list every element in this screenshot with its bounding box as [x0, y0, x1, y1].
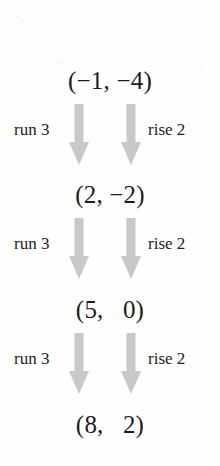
rise-label-2: rise 2: [148, 235, 185, 252]
coordinate-point-3: (5, 0): [0, 297, 220, 322]
step-row-2: run 3 rise 2: [0, 218, 220, 280]
rise-label-3: rise 2: [148, 350, 185, 367]
step-row-3: run 3 rise 2: [0, 333, 220, 395]
coordinate-point-1: (−1, −4): [0, 68, 220, 93]
rise-label-1: rise 2: [148, 121, 185, 138]
down-arrow-icon-rise-2: [120, 218, 142, 280]
down-arrow-icon-run-3: [68, 333, 90, 395]
run-label-3: run 3: [14, 350, 49, 367]
down-arrow-icon-run-1: [68, 104, 90, 166]
down-arrow-icon-rise-1: [120, 104, 142, 166]
coordinate-point-4: (8, 2): [0, 412, 220, 437]
run-label-1: run 3: [14, 121, 49, 138]
scan-artifact: [14, 14, 24, 22]
scan-artifact: [57, 59, 66, 65]
step-row-1: run 3 rise 2: [0, 104, 220, 166]
down-arrow-icon-rise-3: [120, 333, 142, 395]
slope-chain-figure: (−1, −4) run 3 rise 2 (2, −2) run 3: [0, 0, 220, 466]
run-label-2: run 3: [14, 235, 49, 252]
down-arrow-icon-run-2: [68, 218, 90, 280]
coordinate-point-2: (2, −2): [0, 182, 220, 207]
